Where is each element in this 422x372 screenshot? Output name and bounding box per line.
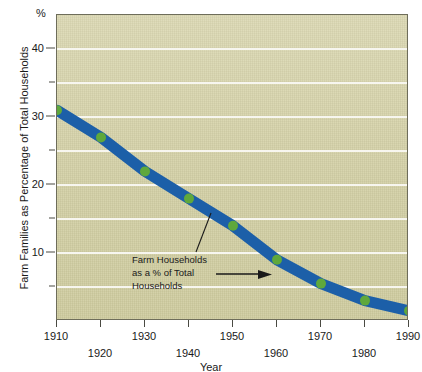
series-marker-group	[57, 105, 408, 316]
x-axis-title: Year	[0, 362, 422, 372]
x-tick	[56, 320, 57, 327]
x-tick	[364, 320, 365, 327]
x-tick-label: 1990	[396, 331, 420, 342]
y-tick-major	[46, 116, 55, 117]
x-tick-label: 1950	[220, 331, 244, 342]
x-tick	[276, 320, 277, 327]
x-axis-tick-group	[0, 320, 422, 330]
y-tick-major	[46, 184, 55, 185]
x-tick-label: 1980	[352, 348, 376, 359]
annotation-line-2: as a % of Total	[132, 266, 207, 279]
series-data-point	[140, 166, 150, 176]
x-tick	[232, 320, 233, 327]
x-tick-label: 1920	[88, 348, 112, 359]
series-data-point	[96, 132, 106, 142]
y-tick-label: 40	[32, 43, 44, 54]
y-tick-label: 20	[32, 179, 44, 190]
x-tick	[144, 320, 145, 327]
y-tick-minor	[49, 286, 55, 287]
chart-figure: % 10203040 Farm Families as Percentage o…	[0, 0, 422, 372]
series-layer	[57, 15, 408, 320]
plot-area	[56, 14, 408, 320]
x-tick-label: 1930	[132, 331, 156, 342]
y-axis: % 10203040 Farm Families as Percentage o…	[0, 0, 56, 372]
y-tick-major	[46, 252, 55, 253]
x-tick	[320, 320, 321, 327]
y-tick-label: 30	[32, 111, 44, 122]
series-data-point	[228, 221, 238, 231]
x-tick-label: 1970	[308, 331, 332, 342]
series-line-farm-households	[57, 110, 408, 311]
series-data-point	[316, 279, 326, 289]
x-tick	[100, 320, 101, 327]
y-tick-major	[46, 48, 55, 49]
annotation-line-3: Households	[132, 279, 207, 292]
y-axis-unit-label: %	[36, 8, 46, 19]
x-tick	[188, 320, 189, 327]
y-tick-minor	[49, 218, 55, 219]
x-tick	[408, 320, 409, 327]
y-tick-minor	[49, 82, 55, 83]
x-tick-label: 1960	[264, 348, 288, 359]
series-data-point	[360, 296, 370, 306]
chart-annotation: Farm Households as a % of Total Househol…	[132, 253, 207, 292]
series-data-point	[184, 194, 194, 204]
y-axis-title: Farm Families as Percentage of Total Hou…	[18, 18, 30, 318]
x-tick-label: 1910	[44, 331, 68, 342]
series-data-point	[272, 255, 282, 265]
y-tick-label: 10	[32, 247, 44, 258]
y-tick-minor	[49, 150, 55, 151]
annotation-line-1: Farm Households	[132, 253, 207, 266]
x-tick-label: 1940	[176, 348, 200, 359]
